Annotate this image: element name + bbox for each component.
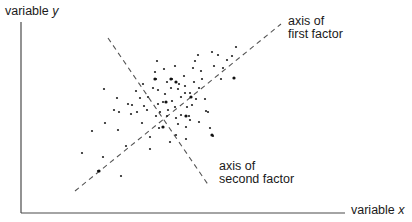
data-point xyxy=(174,106,176,108)
data-point xyxy=(120,175,122,177)
data-point xyxy=(139,97,141,99)
data-point xyxy=(184,114,187,117)
data-point xyxy=(195,98,197,100)
data-point xyxy=(217,54,219,56)
data-point xyxy=(183,75,185,77)
data-point xyxy=(91,130,93,132)
data-point xyxy=(180,96,182,98)
data-point xyxy=(118,111,120,113)
data-point xyxy=(131,104,133,106)
data-point xyxy=(189,92,191,94)
data-point xyxy=(185,138,187,140)
data-point xyxy=(127,103,129,105)
data-point xyxy=(169,141,171,143)
data-point xyxy=(171,100,173,102)
data-point xyxy=(152,87,154,89)
data-point xyxy=(188,115,190,117)
data-points xyxy=(81,46,237,177)
data-point xyxy=(158,127,160,129)
data-point xyxy=(130,113,132,115)
data-point xyxy=(125,145,127,147)
data-point xyxy=(198,87,200,89)
data-point xyxy=(102,156,104,158)
data-point xyxy=(136,111,138,113)
data-point xyxy=(162,101,164,103)
data-point xyxy=(167,109,169,111)
data-point xyxy=(157,89,159,91)
data-point xyxy=(193,81,195,83)
data-point xyxy=(166,115,168,117)
factor-analysis-diagram: variable y variable x axis of first fact… xyxy=(0,0,412,222)
data-point xyxy=(143,105,145,107)
data-point xyxy=(204,98,206,100)
second-factor-axis-line xyxy=(108,38,209,186)
data-point xyxy=(161,125,164,128)
data-point xyxy=(153,77,156,80)
data-point xyxy=(222,67,224,69)
data-point xyxy=(177,123,179,125)
data-point xyxy=(164,93,166,95)
data-point xyxy=(184,92,186,94)
data-point xyxy=(135,90,137,92)
second-factor-annotation-line2: second factor xyxy=(219,173,294,186)
data-point xyxy=(159,111,161,113)
data-point xyxy=(205,110,207,112)
data-point xyxy=(198,121,200,123)
data-point xyxy=(209,127,211,129)
data-point xyxy=(154,71,156,73)
data-point xyxy=(185,126,187,128)
data-point xyxy=(200,70,202,72)
data-point xyxy=(104,122,106,124)
data-point xyxy=(170,87,172,89)
data-point xyxy=(103,88,105,90)
data-point xyxy=(175,117,177,119)
data-point xyxy=(189,95,192,98)
data-point xyxy=(116,97,118,99)
data-point xyxy=(149,136,151,138)
data-point xyxy=(192,67,194,69)
data-point xyxy=(226,59,228,61)
data-point xyxy=(147,96,149,98)
data-point xyxy=(178,83,180,85)
data-point xyxy=(207,111,209,113)
data-point xyxy=(149,148,151,150)
first-factor-annotation: axis of first factor xyxy=(288,15,343,41)
data-point xyxy=(169,77,172,80)
data-point xyxy=(211,51,213,53)
data-point xyxy=(155,115,157,117)
data-point xyxy=(184,85,186,87)
data-point xyxy=(180,114,182,116)
data-point xyxy=(81,152,83,154)
scatter-plot xyxy=(0,0,412,222)
data-point xyxy=(210,133,213,136)
data-point xyxy=(117,129,119,131)
data-point xyxy=(194,60,196,62)
data-point xyxy=(146,109,148,111)
data-point xyxy=(189,119,191,121)
data-point xyxy=(197,54,199,56)
data-point xyxy=(191,104,193,106)
data-point xyxy=(97,169,100,172)
second-factor-annotation: axis of second factor xyxy=(219,160,294,186)
data-point xyxy=(163,68,165,70)
y-axis-label: variable y xyxy=(5,5,59,18)
data-point xyxy=(201,78,203,80)
data-point xyxy=(174,80,177,83)
data-point xyxy=(220,78,222,80)
first-factor-annotation-line2: first factor xyxy=(288,28,343,41)
x-axis-label: variable x xyxy=(351,204,405,217)
data-point xyxy=(164,100,167,103)
data-point xyxy=(175,134,177,136)
data-point xyxy=(186,106,188,108)
data-point xyxy=(113,109,115,111)
data-point xyxy=(231,55,233,57)
data-point xyxy=(166,81,168,83)
data-point xyxy=(213,65,215,67)
data-point xyxy=(232,76,235,79)
data-point xyxy=(174,65,176,67)
data-point xyxy=(156,60,158,62)
data-point xyxy=(177,88,179,90)
data-point xyxy=(235,46,237,48)
data-point xyxy=(141,122,143,124)
data-point xyxy=(157,103,159,105)
